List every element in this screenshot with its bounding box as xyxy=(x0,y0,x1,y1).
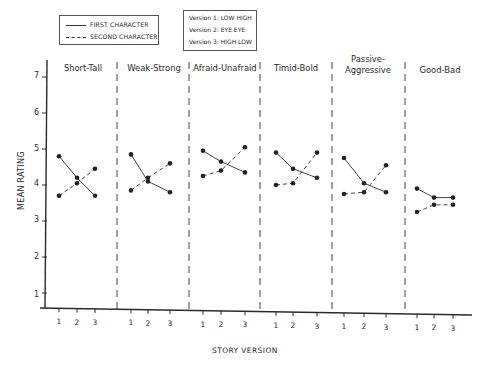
x-tick-label: 1 xyxy=(413,323,421,332)
ytick-1: 1 xyxy=(29,290,39,299)
y-axis-title: MEAN RATING xyxy=(17,146,26,216)
data-point xyxy=(415,186,420,191)
first-character-line xyxy=(276,153,317,178)
panel-title-passive-aggressive: Passive-Aggressive xyxy=(334,54,402,76)
data-point xyxy=(93,167,98,172)
panel-title-short-tall: Short-Tall xyxy=(58,63,108,74)
x-tick-label: 3 xyxy=(382,323,390,332)
panel-title-weak-strong: Weak-Strong xyxy=(120,63,188,74)
x-axis-title: STORY VERSION xyxy=(212,346,278,355)
data-point xyxy=(75,176,80,181)
data-point xyxy=(274,150,279,155)
plot-area xyxy=(0,0,482,365)
ytick-3: 3 xyxy=(29,215,39,224)
data-point xyxy=(129,152,134,157)
first-character-line xyxy=(344,158,386,192)
ytick-7: 7 xyxy=(29,71,39,80)
panel-title-good-bad: Good-Bad xyxy=(410,65,470,76)
x-tick-label: 2 xyxy=(217,320,225,329)
x-tick-label: 3 xyxy=(166,319,174,328)
data-point xyxy=(451,195,456,200)
panel-title-timid-bold: Timid-Bold xyxy=(262,63,330,74)
x-tick-label: 1 xyxy=(55,317,63,326)
data-point xyxy=(342,192,347,197)
data-point xyxy=(168,190,173,195)
x-tick-label: 3 xyxy=(449,324,457,333)
data-point xyxy=(415,210,420,215)
data-point xyxy=(291,181,296,186)
x-tick-label: 2 xyxy=(430,323,438,332)
data-point xyxy=(219,168,224,173)
data-point xyxy=(315,176,320,181)
data-point xyxy=(57,194,62,199)
x-axis-line xyxy=(40,308,472,315)
x-tick-label: 1 xyxy=(340,322,348,331)
y-axis-line xyxy=(45,60,47,308)
data-point xyxy=(362,181,367,186)
x-tick-label: 2 xyxy=(289,321,297,330)
data-point xyxy=(342,156,347,161)
data-point xyxy=(129,188,134,193)
data-point xyxy=(201,149,206,154)
data-point xyxy=(146,176,151,181)
data-point xyxy=(243,145,248,150)
ytick-6: 6 xyxy=(29,108,39,117)
panel-title-afraid-unafraid: Afraid-Unafraid xyxy=(190,63,260,74)
ytick-5: 5 xyxy=(29,144,39,153)
x-tick-label: 3 xyxy=(241,320,249,329)
x-tick-label: 2 xyxy=(73,318,81,327)
x-tick-label: 2 xyxy=(360,322,368,331)
second-character-line xyxy=(203,147,245,176)
x-tick-label: 3 xyxy=(91,318,99,327)
x-tick-label: 1 xyxy=(272,321,280,330)
x-tick-label: 1 xyxy=(199,320,207,329)
second-character-line xyxy=(131,163,170,190)
data-point xyxy=(93,194,98,199)
ytick-4: 4 xyxy=(29,179,39,188)
data-point xyxy=(384,163,389,168)
data-point xyxy=(168,161,173,166)
x-tick-label: 3 xyxy=(313,322,321,331)
data-point xyxy=(274,183,279,188)
ytick-2: 2 xyxy=(29,252,39,261)
data-point xyxy=(384,190,389,195)
x-tick-label: 1 xyxy=(127,318,135,327)
second-character-line xyxy=(276,153,317,185)
data-point xyxy=(57,154,62,159)
data-point xyxy=(362,190,367,195)
data-point xyxy=(315,150,320,155)
data-point xyxy=(201,174,206,179)
data-point xyxy=(219,159,224,164)
x-tick-label: 2 xyxy=(144,319,152,328)
data-point xyxy=(291,167,296,172)
data-point xyxy=(451,203,456,208)
data-point xyxy=(75,181,80,186)
data-point xyxy=(432,195,437,200)
data-point xyxy=(432,203,437,208)
data-point xyxy=(243,170,248,175)
